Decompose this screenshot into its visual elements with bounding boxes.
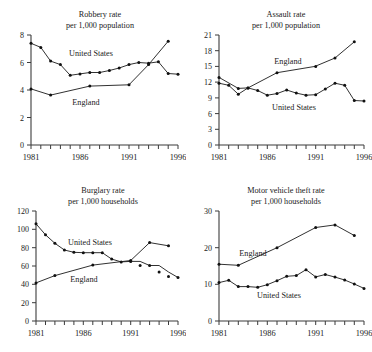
chart-title-burglary: Burglary rate (81, 186, 125, 195)
series-line-united-states (218, 82, 366, 103)
ytick-label: 9 (208, 94, 212, 103)
x-ticks-burglary: 1981 1986 1991 1996 (28, 321, 186, 338)
chart-subtitle-robbery: per 1,000 population (66, 21, 134, 30)
series-annotation-england: England (239, 249, 266, 258)
ytick-label: 18 (204, 47, 212, 56)
series-line-england (218, 223, 356, 266)
series-annotation-united-states: United States (68, 238, 112, 247)
ytick-label: 4 (20, 86, 24, 95)
ytick-label: 60 (21, 262, 29, 271)
ytick-label: 0 (20, 141, 24, 150)
ytick-label: 120 (17, 207, 29, 216)
xtick-label-1996: 1996 (356, 329, 372, 338)
ytick-label: 6 (20, 59, 24, 68)
xtick-label-1986: 1986 (75, 329, 92, 338)
chart-subtitle-burglary: per 1,000 households (68, 197, 138, 206)
x-ticks-robbery: 1981 1986 1991 1996 (23, 145, 186, 162)
series-markers-england (35, 241, 171, 284)
chart-title-assault: Assault rate (267, 10, 306, 19)
series-markers-united-states (218, 268, 366, 290)
xtick-label-1996: 1996 (356, 153, 372, 162)
x-ticks-motor-vehicle-theft: 1981 1986 1991 1996 (211, 321, 372, 338)
ytick-label: 12 (204, 78, 212, 87)
xtick-label-1986: 1986 (259, 153, 276, 162)
ytick-label: 21 (204, 31, 212, 40)
series-annotation-england: England (274, 57, 301, 66)
chart-panel-motor-vehicle-theft: Motor vehicle theft rate per 1,000 house… (186, 176, 372, 352)
chart-title-robbery: Robbery rate (79, 10, 122, 19)
xtick-label-1981: 1981 (211, 329, 228, 338)
series-annotation-united-states: United States (272, 103, 316, 112)
crime-statistics-figure: Robbery rate per 1,000 population 0 2 4 … (0, 0, 372, 352)
chart-subtitle-motor-vehicle-theft: per 1,000 households (251, 197, 321, 206)
ytick-label: 30 (204, 207, 212, 216)
chart-panel-burglary: Burglary rate per 1,000 households 0 20 … (0, 176, 186, 352)
xtick-label-1991: 1991 (307, 153, 324, 162)
series-line-united-states (35, 222, 180, 279)
series-line-england (35, 241, 171, 284)
xtick-label-1991: 1991 (122, 329, 139, 338)
y-ticks-assault: 0 3 6 9 12 15 18 21 (204, 31, 219, 150)
ytick-label: 20 (204, 244, 212, 253)
y-ticks-burglary: 0 20 40 60 80 100 120 (17, 207, 36, 326)
y-ticks-motor-vehicle-theft: 0 10 20 30 (204, 207, 219, 326)
series-line-united-states (30, 42, 180, 77)
xtick-label-1981: 1981 (28, 329, 45, 338)
ytick-label: 80 (21, 244, 29, 253)
series-markers-england (218, 223, 356, 266)
ytick-label: 10 (204, 280, 212, 289)
series-annotation-england: England (70, 275, 97, 284)
xtick-label-1981: 1981 (23, 153, 40, 162)
series-line-united-states (218, 268, 366, 290)
x-ticks-assault: 1981 1986 1991 1996 (211, 145, 372, 162)
series-annotation-united-states: United States (69, 49, 113, 58)
chart-subtitle-assault: per 1,000 population (252, 21, 320, 30)
ytick-label: 6 (208, 110, 212, 119)
xtick-label-1991: 1991 (307, 329, 324, 338)
chart-panel-assault: Assault rate per 1,000 population 0 3 6 … (186, 0, 372, 176)
xtick-label-1996: 1996 (170, 329, 186, 338)
xtick-label-1991: 1991 (121, 153, 138, 162)
ytick-label: 40 (21, 280, 29, 289)
ytick-label: 3 (208, 125, 212, 134)
ytick-label: 15 (204, 62, 212, 71)
y-ticks-robbery: 0 2 4 6 8 (20, 31, 31, 150)
ytick-label: 2 (20, 114, 24, 123)
ytick-label: 0 (208, 317, 212, 326)
xtick-label-1981: 1981 (211, 153, 228, 162)
ytick-label: 20 (21, 299, 29, 308)
xtick-label-1986: 1986 (72, 153, 89, 162)
ytick-label: 100 (17, 225, 29, 234)
xtick-label-1986: 1986 (259, 329, 276, 338)
chart-title-motor-vehicle-theft: Motor vehicle theft rate (247, 186, 325, 195)
series-markers-united-states (218, 82, 366, 103)
ytick-label: 0 (25, 317, 29, 326)
series-annotation-united-states: United States (257, 291, 301, 300)
xtick-label-1996: 1996 (170, 153, 186, 162)
series-annotation-england: England (72, 98, 99, 107)
ytick-label: 0 (208, 141, 212, 150)
chart-panel-robbery: Robbery rate per 1,000 population 0 2 4 … (0, 0, 186, 176)
ytick-label: 8 (20, 31, 24, 40)
series-markers-united-states (35, 222, 180, 279)
